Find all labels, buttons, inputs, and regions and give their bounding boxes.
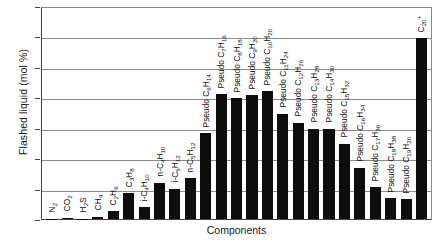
plot-area: N2CO2H2SCH4C2H6C3H8i-C4H10n-C4H10i-C5H12… [41, 7, 432, 220]
bar-category-label: CH4 [94, 195, 102, 211]
bar-category-label: Pseudo C16H34 [355, 105, 363, 162]
bar[interactable] [108, 211, 119, 219]
bar-item[interactable]: Pseudo C15H32 [337, 8, 352, 219]
bar[interactable] [216, 94, 227, 219]
y-axis-tick-mark [35, 190, 40, 191]
y-axis-tick-mark [35, 68, 40, 69]
bar-category-label: Pseudo C9H20 [248, 36, 256, 89]
bar-category-label: Pseudo C6H14 [201, 74, 209, 127]
bar[interactable] [123, 193, 134, 219]
bar[interactable] [370, 187, 381, 219]
bar-item[interactable]: C2H6 [106, 8, 121, 219]
bar[interactable] [262, 91, 273, 219]
bar-item[interactable]: Pseudo C13H28 [306, 8, 321, 219]
bar[interactable] [401, 199, 412, 219]
bar[interactable] [185, 178, 196, 219]
x-axis-title: Components [41, 224, 432, 236]
bar-chart: Flashed liquid (mol %) 14121086420 N2CO2… [0, 0, 440, 242]
bar-category-label: Pseudo C13H28 [309, 66, 317, 123]
bar-item[interactable]: Pseudo C8H18 [229, 8, 244, 219]
bar-item[interactable]: N2 [44, 8, 59, 219]
y-axis-tick-mark [35, 159, 40, 160]
bar[interactable] [154, 183, 165, 219]
bar-item[interactable]: Pseudo C17H36 [368, 8, 383, 219]
bar-item[interactable]: Pseudo C6H14 [198, 8, 213, 219]
bar-item[interactable]: Pseudo C11H24 [275, 8, 290, 219]
bar-category-label: n-C5H12 [186, 142, 194, 172]
bar-category-label: Pseudo C11H24 [278, 51, 286, 107]
bar-category-label: N2 [47, 203, 55, 213]
bar-item[interactable]: C3H8 [121, 8, 136, 219]
bar-item[interactable]: CO2 [59, 8, 74, 219]
bar-category-label: CO2 [63, 196, 71, 212]
bar-item[interactable]: Pseudo C19H20 [398, 8, 413, 219]
bar-item[interactable]: n-C4H10 [152, 8, 167, 219]
bar-category-label: i-C4H10 [140, 174, 148, 201]
bar[interactable] [323, 129, 334, 219]
bar-item[interactable]: Pseudo C7H16 [213, 8, 228, 219]
bar[interactable] [200, 133, 211, 219]
bar-category-label: Pseudo C18H38 [386, 135, 394, 192]
bar-item[interactable]: Pseudo C14H30 [321, 8, 336, 219]
bar-item[interactable]: n-C5H12 [183, 8, 198, 219]
bar-item[interactable]: CH4 [90, 8, 105, 219]
bar-item[interactable]: Pseudo C18H38 [383, 8, 398, 219]
bar-category-label: n-C4H10 [155, 147, 163, 177]
bar[interactable] [293, 123, 304, 219]
bar[interactable] [62, 218, 73, 219]
bar-item[interactable]: i-C5H12 [167, 8, 182, 219]
bar-item[interactable]: Pseudo C10H20 [260, 8, 275, 219]
bar-item[interactable]: C20+ [414, 8, 429, 219]
bar[interactable] [231, 98, 242, 219]
bar[interactable] [246, 95, 257, 219]
bar-series: N2CO2H2SCH4C2H6C3H8i-C4H10n-C4H10i-C5H12… [42, 8, 431, 219]
bar-category-label: C3H8 [124, 168, 132, 187]
y-axis-tick-mark [35, 129, 40, 130]
bar[interactable] [92, 217, 103, 219]
y-axis-tick-mark [35, 37, 40, 38]
bar[interactable] [277, 114, 288, 220]
bar-item[interactable]: H2S [75, 8, 90, 219]
bar-category-label: i-C5H12 [171, 156, 179, 183]
bar-category-label: Pseudo C14H30 [325, 66, 333, 123]
bar[interactable] [339, 144, 350, 219]
bar-category-label: Pseudo C10H20 [263, 28, 271, 85]
bar-category-label: C2H6 [109, 186, 117, 205]
bar-category-label: Pseudo C12H26 [294, 60, 302, 117]
bar[interactable] [385, 198, 396, 219]
bar-category-label: H2S [78, 197, 86, 212]
bar-item[interactable]: Pseudo C16H34 [352, 8, 367, 219]
bar-item[interactable]: Pseudo C9H20 [244, 8, 259, 219]
bar-category-label: Pseudo C8H18 [232, 39, 240, 92]
bar-category-label: Pseudo C17H36 [371, 125, 379, 182]
bar[interactable] [354, 168, 365, 219]
bar-item[interactable]: Pseudo C12H26 [291, 8, 306, 219]
y-axis-title: Flashed liquid (mol %) [17, 27, 29, 177]
bar-category-label: Pseudo C15H32 [340, 81, 348, 138]
bar-category-label: Pseudo C19H20 [402, 137, 410, 194]
y-axis-tick-mark [35, 220, 40, 221]
bar[interactable] [139, 207, 150, 219]
bar-category-label: C20+ [417, 16, 425, 33]
bar[interactable] [169, 189, 180, 219]
bar-item[interactable]: i-C4H10 [136, 8, 151, 219]
y-axis-tick-mark [35, 7, 40, 8]
bar[interactable] [308, 129, 319, 219]
y-axis-tick-mark [35, 98, 40, 99]
bar-category-label: Pseudo C7H16 [217, 35, 225, 88]
bar[interactable] [416, 38, 427, 219]
